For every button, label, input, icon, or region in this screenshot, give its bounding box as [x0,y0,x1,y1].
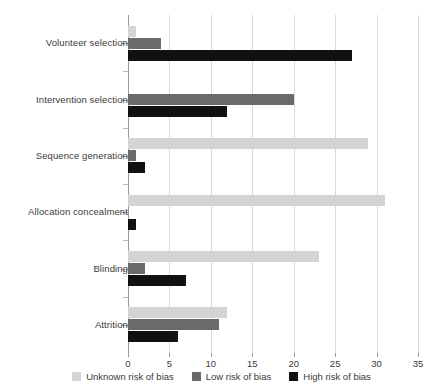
bar [128,162,145,173]
bar-row [128,150,418,161]
x-axis-tick [211,353,212,357]
x-axis-tick [335,353,336,357]
bar [128,50,352,61]
x-axis-ticklabel: 20 [288,358,299,369]
x-axis-ticklabel: 30 [371,358,382,369]
legend-swatch-icon [192,372,201,381]
chart-legend: Unknown risk of biasLow risk of biasHigh… [0,371,443,382]
y-axis-label: Attrition [6,319,128,330]
bar-row [128,162,418,173]
legend-swatch-icon [72,372,81,381]
bar-group [128,138,418,174]
legend-swatch-icon [289,372,298,381]
bar [128,150,136,161]
bar-row [128,195,418,206]
bar-row [128,331,418,342]
y-axis-label: Allocation concealment [6,206,128,217]
x-axis-tick [377,353,378,357]
bar-group [128,195,418,231]
bar-row [128,319,418,330]
bar-row [128,94,418,105]
x-axis-ticklabel: 10 [206,358,217,369]
x-axis-tick [252,353,253,357]
legend-item: High risk of bias [289,371,371,382]
legend-label: High risk of bias [303,371,371,382]
x-axis-tick [418,353,419,357]
bar [128,94,294,105]
bar [128,275,186,286]
bar [128,26,136,37]
y-axis-label: Blinding [6,263,128,274]
bar [128,307,227,318]
bar-row [128,106,418,117]
bar-row [128,275,418,286]
x-axis-tick [128,353,129,357]
x-axis-ticklabel: 5 [167,358,172,369]
legend-label: Unknown risk of bias [86,371,174,382]
y-axis-label: Sequence generation [6,150,128,161]
bar [128,38,161,49]
bar [128,319,219,330]
bar-group [128,26,418,62]
x-axis-tick [169,353,170,357]
bar [128,138,368,149]
bar-row [128,263,418,274]
bar-row [128,50,418,61]
x-axis-ticklabel: 0 [125,358,130,369]
bar-row [128,207,418,218]
gridline [418,15,419,353]
bar-row [128,82,418,93]
bar-group [128,251,418,287]
x-axis-ticklabel: 15 [247,358,258,369]
bar-row [128,251,418,262]
bar-group [128,307,418,343]
bar-row [128,138,418,149]
y-axis-label: Intervention selection [6,94,128,105]
bar [128,331,178,342]
y-axis-labels: Volunteer selectionIntervention selectio… [0,0,128,390]
bar-row [128,38,418,49]
bar [128,106,227,117]
bar [128,263,145,274]
plot-area [128,15,418,353]
x-axis-tick [294,353,295,357]
legend-label: Low risk of bias [206,371,271,382]
bar [128,195,385,206]
bar [128,251,319,262]
legend-item: Low risk of bias [192,371,271,382]
y-axis-label: Volunteer selection [6,37,128,48]
legend-item: Unknown risk of bias [72,371,174,382]
bar-group [128,82,418,118]
bar [128,219,136,230]
x-axis-ticklabel: 25 [330,358,341,369]
x-axis-ticklabel: 35 [413,358,424,369]
bar-row [128,26,418,37]
bar-chart: Volunteer selectionIntervention selectio… [0,0,443,390]
bar-row [128,307,418,318]
bar-row [128,219,418,230]
